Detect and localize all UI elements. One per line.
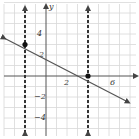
coordinate-graph: y 4 2 −2 −4 2 6 — [0, 0, 139, 139]
grid — [4, 3, 136, 137]
x-tick-2: 2 — [63, 78, 69, 87]
axes — [4, 6, 136, 136]
y-tick-4: 4 — [36, 29, 42, 38]
y-tick-neg2: −2 — [34, 92, 46, 101]
x-tick-6: 6 — [110, 78, 115, 87]
point-4-0 — [85, 73, 90, 78]
y-tick-neg4: −4 — [34, 113, 46, 122]
y-axis-label: y — [48, 2, 54, 11]
point-neg3-3 — [22, 42, 27, 47]
